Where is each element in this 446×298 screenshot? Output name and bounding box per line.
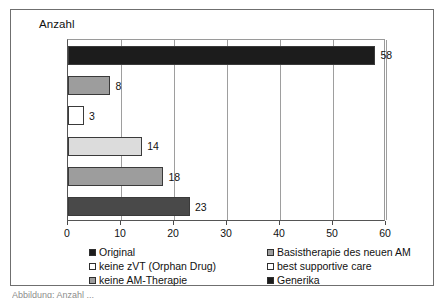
bar-best-supportive-care bbox=[68, 137, 142, 156]
legend-item[interactable]: best supportive care bbox=[267, 261, 372, 272]
legend-item-label: best supportive care bbox=[277, 261, 372, 272]
chart-figure-frame: Anzahl 5883141823 0102030405060 Original… bbox=[10, 9, 434, 286]
legend-item[interactable]: Original bbox=[89, 247, 135, 258]
x-tick-mark-40 bbox=[279, 221, 280, 225]
figure-caption: Abbildung: Anzahl ... bbox=[12, 290, 262, 298]
legend-item[interactable]: Basistherapie des neuen AM bbox=[267, 247, 411, 258]
bar-value-label: 18 bbox=[163, 171, 180, 183]
bar-value-label: 14 bbox=[142, 140, 159, 152]
legend-item-label: Generika bbox=[277, 275, 320, 286]
bar-row: 23 bbox=[68, 197, 384, 216]
bar-row: 3 bbox=[68, 106, 384, 125]
x-tick-mark-30 bbox=[226, 221, 227, 225]
x-tick-label-0: 0 bbox=[64, 227, 70, 239]
x-tick-mark-50 bbox=[332, 221, 333, 225]
legend-item-label: Basistherapie des neuen AM bbox=[277, 247, 411, 258]
plot-area: 5883141823 bbox=[67, 39, 385, 221]
x-tick-label-40: 40 bbox=[273, 227, 285, 239]
legend-swatch-icon bbox=[89, 249, 96, 256]
bars-group: 5883141823 bbox=[68, 40, 384, 220]
bar-value-label: 8 bbox=[110, 80, 121, 92]
chart-legend: Originalkeine zVT (Orphan Drug)keine AM-… bbox=[89, 247, 419, 291]
x-tick-mark-60 bbox=[385, 221, 386, 225]
x-tick-label-30: 30 bbox=[220, 227, 232, 239]
x-tick-label-10: 10 bbox=[114, 227, 126, 239]
bar-basistherapie-des-neuen-am bbox=[68, 76, 110, 95]
x-tick-mark-0 bbox=[67, 221, 68, 225]
bar-value-label: 3 bbox=[84, 110, 95, 122]
bar-value-label: 23 bbox=[190, 201, 207, 213]
legend-item[interactable]: Generika bbox=[267, 275, 320, 286]
bar-original bbox=[68, 46, 375, 65]
gridline-60 bbox=[386, 40, 387, 220]
legend-item[interactable]: keine zVT (Orphan Drug) bbox=[89, 261, 216, 272]
x-axis: 0102030405060 bbox=[67, 221, 385, 243]
bar-row: 14 bbox=[68, 137, 384, 156]
bar-keine-am-therapie bbox=[68, 167, 163, 186]
bar-row: 8 bbox=[68, 76, 384, 95]
legend-swatch-icon bbox=[267, 249, 274, 256]
legend-item-label: Original bbox=[99, 247, 135, 258]
bar-keine-zvt-orphan-drug bbox=[68, 106, 84, 125]
bar-value-label: 58 bbox=[375, 49, 392, 61]
bar-row: 18 bbox=[68, 167, 384, 186]
legend-item-label: keine AM-Therapie bbox=[99, 275, 187, 286]
chart-title: Anzahl bbox=[39, 18, 75, 30]
x-tick-label-60: 60 bbox=[379, 227, 391, 239]
legend-swatch-icon bbox=[267, 263, 274, 270]
x-tick-mark-10 bbox=[120, 221, 121, 225]
legend-item-label: keine zVT (Orphan Drug) bbox=[99, 261, 216, 272]
bar-row: 58 bbox=[68, 46, 384, 65]
legend-swatch-icon bbox=[89, 263, 96, 270]
x-tick-label-50: 50 bbox=[326, 227, 338, 239]
legend-swatch-icon bbox=[89, 277, 96, 284]
legend-item[interactable]: keine AM-Therapie bbox=[89, 275, 187, 286]
x-tick-label-20: 20 bbox=[167, 227, 179, 239]
bar-generika bbox=[68, 197, 190, 216]
x-tick-mark-20 bbox=[173, 221, 174, 225]
legend-swatch-icon bbox=[267, 277, 274, 284]
